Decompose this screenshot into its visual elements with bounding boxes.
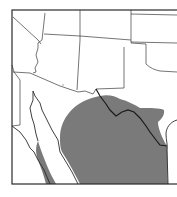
range-map bbox=[0, 0, 177, 197]
locality-dot bbox=[62, 84, 64, 86]
